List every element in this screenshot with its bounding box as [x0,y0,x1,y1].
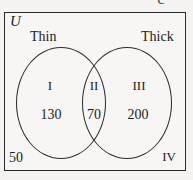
clipped-glyph: c [152,0,170,7]
region-count-ii: 70 [78,107,110,122]
set-label-thick: Thick [141,29,174,44]
region-count-iv: 50 [9,150,37,165]
region-count-i: 130 [34,107,68,122]
region-numeral-i: I [38,79,62,93]
region-numeral-ii: II [82,79,106,93]
universal-set-label: U [10,14,21,29]
region-count-iii: 200 [118,107,158,122]
region-numeral-iii: III [126,79,152,93]
venn-circle-thick [82,47,172,159]
region-numeral-iv: IV [158,150,180,164]
set-label-thin: Thin [30,29,56,44]
venn-diagram-figure: c U Thin Thick I II III IV 130 70 200 50 [0,0,193,180]
